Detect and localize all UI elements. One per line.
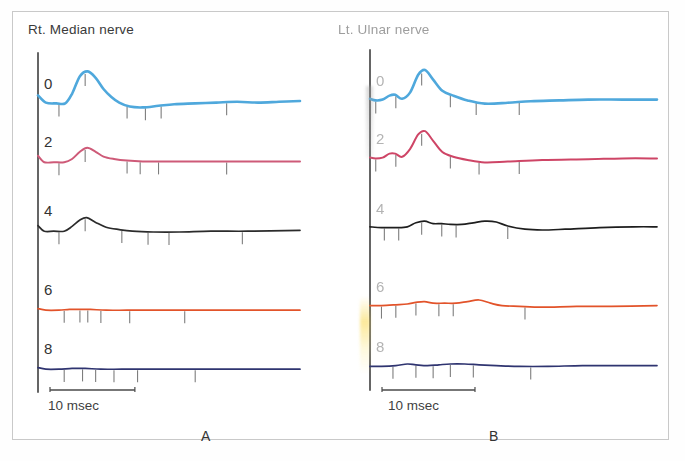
trace-label-b-0: 0 bbox=[376, 72, 384, 89]
panel-letter-b: B bbox=[489, 428, 498, 444]
trace-canvas bbox=[0, 0, 685, 461]
trace-label-b-2: 2 bbox=[376, 130, 384, 147]
trace-label-b-8: 8 bbox=[376, 338, 384, 355]
trace-label-a-6: 6 bbox=[44, 281, 52, 298]
trace-label-a-8: 8 bbox=[44, 340, 52, 357]
scale-bar-label-b: 10 msec bbox=[388, 398, 439, 413]
scale-bar-label-a: 10 msec bbox=[48, 398, 99, 413]
trace-label-b-4: 4 bbox=[376, 200, 384, 217]
trace-label-a-4: 4 bbox=[44, 202, 52, 219]
trace-label-a-0: 0 bbox=[44, 75, 52, 92]
trace-label-a-2: 2 bbox=[44, 133, 52, 150]
trace-label-b-6: 6 bbox=[376, 278, 384, 295]
figure-root: Rt. Median nerve Lt. Ulnar nerve 0246802… bbox=[0, 0, 685, 461]
panel-letter-a: A bbox=[201, 428, 210, 444]
